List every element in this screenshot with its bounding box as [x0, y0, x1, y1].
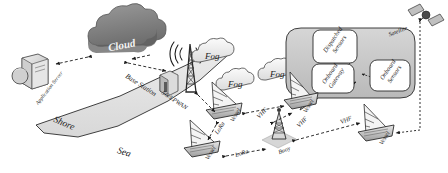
- sailboat-icon-vessel-4: [358, 104, 394, 141]
- callout-box-onboard-sensors: [370, 60, 410, 91]
- link-cloud-basestation-a: [132, 55, 150, 59]
- callout-box-dispatched-sensors: [313, 30, 357, 63]
- diagram-svg: [0, 0, 448, 173]
- link-cloud-basestation: [128, 63, 166, 71]
- cloud-icon: [88, 4, 166, 53]
- link-vhf-right: [296, 123, 360, 140]
- server-icon: [12, 54, 48, 89]
- satellite-icon: [408, 4, 444, 26]
- fog-cloud-icon-base: [192, 38, 234, 62]
- diagram-canvas: Cloud Application Server Base Station Sh…: [0, 0, 448, 173]
- fog-cloud-icon-vessel-a: [216, 68, 254, 90]
- link-cloud-appserver: [56, 57, 88, 64]
- link-lora-lower: [226, 149, 266, 156]
- sailboat-icon-vessel-2: [184, 120, 220, 157]
- callout-box-onboard-gateway: [312, 64, 354, 93]
- buoy-icon: [262, 108, 296, 148]
